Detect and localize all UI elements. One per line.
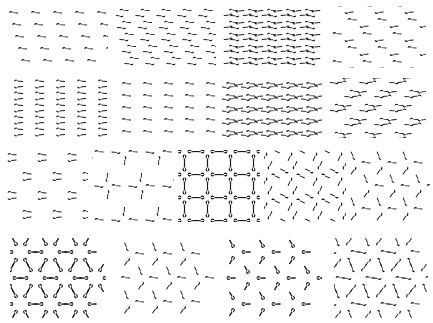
motif-glyph: [268, 15, 277, 17]
motif-glyph: [414, 207, 423, 209]
motif-glyph: [98, 86, 107, 88]
motif-glyph: [152, 305, 159, 314]
motif-glyph: [286, 106, 295, 108]
motif-glyph: [342, 186, 346, 195]
motif-glyph: [368, 80, 377, 82]
motif-glyph: [426, 276, 428, 278]
motif-glyph: [103, 278, 106, 280]
motif-glyph: [56, 91, 65, 93]
motif-glyph: [162, 39, 171, 41]
motif-glyph: [98, 110, 107, 112]
motif-glyph: [249, 15, 258, 17]
motif-glyph: [122, 51, 131, 53]
motif-glyph: [390, 110, 399, 112]
motif-glyph: [403, 78, 412, 80]
motif-glyph: [146, 63, 155, 65]
motif-glyph: [249, 51, 258, 53]
motif-glyph: [405, 237, 412, 246]
motif-glyph: [164, 130, 173, 132]
motif-glyph: [264, 152, 268, 161]
motif-glyph: [143, 82, 152, 84]
motif-glyph: [188, 33, 197, 35]
motif-glyph: [405, 40, 414, 42]
panel-cm: [8, 78, 108, 138]
motif-glyph: [68, 198, 77, 200]
motif-glyph: [146, 184, 155, 186]
motif-glyph: [77, 127, 86, 129]
motif-glyph: [103, 35, 108, 37]
motif-glyph: [201, 27, 210, 29]
motif-glyph: [97, 11, 106, 13]
motif-glyph: [77, 98, 86, 100]
motif-glyph: [286, 82, 295, 84]
motif-glyph: [14, 103, 23, 105]
motif-glyph: [365, 310, 372, 319]
motif-glyph: [286, 57, 295, 59]
motif-glyph: [305, 9, 314, 11]
motif-glyph: [281, 123, 290, 125]
motif-glyph: [10, 302, 13, 304]
motif-glyph: [177, 276, 186, 278]
motif-glyph: [405, 12, 414, 14]
motif-glyph: [229, 85, 238, 87]
motif-glyph: [321, 173, 330, 178]
motif-glyph: [249, 121, 258, 123]
motif-glyph: [185, 21, 194, 23]
motif-glyph: [246, 106, 255, 108]
motif-glyph: [53, 217, 62, 219]
motif-glyph: [246, 130, 255, 132]
motif-glyph: [343, 278, 352, 280]
motif-glyph: [347, 309, 354, 318]
motif-glyph: [68, 160, 77, 162]
motif-glyph: [413, 94, 422, 96]
motif-glyph: [353, 122, 362, 124]
motif-glyph: [53, 11, 62, 13]
motif-glyph: [333, 32, 342, 34]
motif-glyph: [305, 219, 314, 222]
motif-glyph: [107, 190, 109, 199]
motif-glyph: [383, 94, 392, 96]
panel-p2-lattice: [116, 9, 216, 66]
motif-glyph: [129, 186, 138, 188]
motif-glyph: [398, 108, 407, 110]
motif-glyph: [393, 60, 402, 62]
motif-glyph: [8, 153, 17, 155]
panel-p3: [350, 150, 430, 222]
motif-glyph: [98, 79, 107, 81]
motif-glyph: [185, 51, 194, 53]
motif-glyph: [14, 91, 23, 93]
motif-glyph: [185, 106, 194, 108]
motif-glyph: [305, 33, 314, 35]
motif-glyph: [422, 283, 428, 292]
motif-glyph: [373, 78, 382, 80]
panel-p3m1-canvas: [334, 236, 428, 320]
motif-glyph: [56, 134, 65, 136]
motif-glyph: [226, 82, 235, 84]
motif-glyph: [305, 169, 314, 174]
motif-glyph: [360, 263, 367, 272]
panel-cmm-canvas: [6, 150, 88, 222]
motif-glyph: [35, 98, 44, 100]
motif-glyph: [37, 35, 46, 37]
motif-glyph: [309, 85, 318, 87]
motif-glyph: [286, 130, 295, 132]
motif-glyph: [230, 15, 239, 17]
motif-glyph: [280, 169, 289, 174]
motif-glyph: [394, 290, 401, 299]
motif-glyph: [268, 63, 277, 65]
motif-glyph: [257, 173, 260, 175]
motif-glyph: [241, 135, 250, 137]
motif-glyph: [411, 302, 420, 304]
motif-glyph: [348, 18, 357, 20]
motif-glyph: [296, 150, 305, 153]
motif-glyph: [368, 108, 377, 110]
motif-glyph: [289, 121, 298, 123]
motif-glyph: [321, 150, 330, 153]
motif-glyph: [375, 151, 382, 160]
motif-glyph: [178, 196, 181, 198]
motif-glyph: [362, 161, 371, 163]
motif-glyph: [229, 133, 238, 135]
motif-glyph: [338, 152, 343, 161]
motif-glyph: [56, 110, 65, 112]
motif-glyph: [9, 11, 18, 13]
